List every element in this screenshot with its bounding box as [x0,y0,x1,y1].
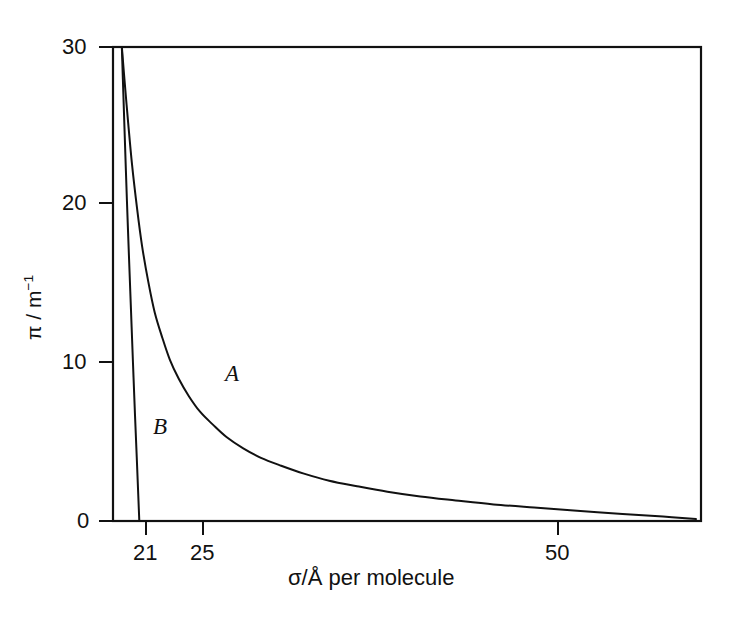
x-tick-label-21: 21 [133,542,157,564]
x-axis-title: σ/Å per molecule [288,567,454,589]
x-axis-ticks [146,521,558,535]
curve-label-b: B [153,415,167,438]
plot-frame [113,47,701,521]
curve-label-a: A [225,362,239,385]
curve-series-a [122,47,696,519]
curve-series-b [122,47,139,521]
axes-border [113,47,701,521]
y-axis-title-exponent: −1 [21,275,36,291]
y-axis-ticks [99,47,113,521]
plot-canvas [0,0,734,626]
x-tick-label-50: 50 [545,542,569,564]
y-tick-label-0: 0 [77,510,89,532]
chart-figure: 30 20 10 0 21 25 50 π / m−1 σ/Å per mole… [0,0,734,626]
y-tick-label-30: 30 [62,36,86,58]
y-axis-title: π / m−1 [22,275,44,340]
y-tick-label-20: 20 [62,192,86,214]
data-curves [122,47,696,521]
x-tick-label-25: 25 [190,542,214,564]
y-tick-label-10: 10 [62,351,86,373]
y-axis-title-symbol: π / m [22,291,45,341]
